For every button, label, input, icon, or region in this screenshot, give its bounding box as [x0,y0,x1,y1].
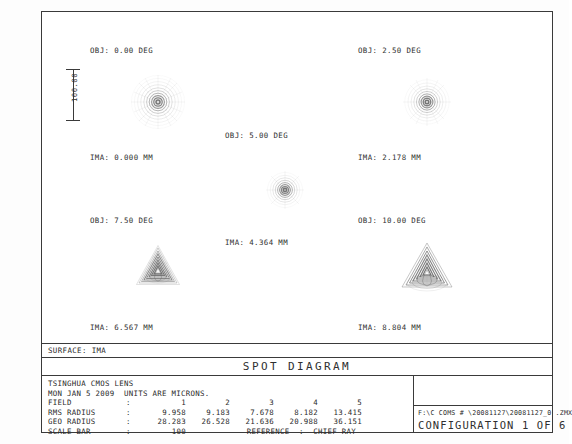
field-num-4: 4 [274,398,318,408]
geo-value-3: 21.636 [230,417,274,427]
row-label-geo: GEO RADIUS [48,417,126,427]
divider-above-surface [42,343,552,344]
spot-field-3 [242,152,328,228]
units-text: UNITS ARE MICRONS. [124,389,210,398]
table-row-lens-name: TSINGHUA CMOS LENS [48,379,408,389]
spot-field-1-glyph [115,64,201,140]
colon-rms: : [126,408,142,418]
results-table: TSINGHUA CMOS LENS MON JAN 5 2009 UNITS … [48,379,408,437]
rms-value-5: 13.415 [318,408,362,418]
rms-value-3: 7.678 [230,408,274,418]
date-units-line: MON JAN 5 2009 UNITS ARE MICRONS. [48,389,210,399]
field-2-ima-label: IMA: 2.178 MM [358,153,421,162]
scale-bar-value: 100 [142,427,186,437]
colon-field: : [126,398,142,408]
field-num-3: 3 [230,398,274,408]
field-num-2: 2 [186,398,230,408]
spot-field-4 [115,234,201,310]
table-row-field: FIELD : 1 2 3 4 5 [48,398,408,408]
spot-field-2-glyph [384,64,470,140]
spot-field-5 [384,234,470,310]
spot-field-3-glyph [242,152,328,228]
table-row-geo: GEO RADIUS : 28.283 26.528 21.636 20.988… [48,417,408,427]
spot-field-5-glyph [384,234,470,310]
colon-scale: : [126,427,142,437]
scale-bar-indicator: 100.00 [66,69,80,121]
field-3-ima-label: IMA: 4.364 MM [225,238,288,247]
table-row-date: MON JAN 5 2009 UNITS ARE MICRONS. [48,389,408,399]
table-row-rms: RMS RADIUS : 9.958 9.183 7.678 8.182 13.… [48,408,408,418]
field-5-ima-label: IMA: 8.804 MM [358,323,421,332]
field-1-ima-label: IMA: 0.000 MM [90,153,153,162]
reference-label: REFERENCE : CHIEF RAY [186,427,356,437]
divider-above-path [414,405,552,406]
row-label-scale: SCALE BAR [48,427,126,437]
footer-block: TSINGHUA CMOS LENS MON JAN 5 2009 UNITS … [42,376,552,432]
field-num-1: 1 [142,398,186,408]
geo-value-2: 26.528 [186,417,230,427]
surface-label: SURFACE: IMA [48,346,106,355]
field-label-text: FIELD [48,398,72,407]
field-5-obj-label: OBJ: 10.00 DEG [358,216,426,225]
table-row-scale: SCALE BAR : 100 REFERENCE : CHIEF RAY [48,427,408,437]
file-info-panel: F:\C COMS # \20081127\20081127_0 .ZMX CO… [414,376,552,432]
spot-field-4-glyph [115,234,201,310]
diagram-frame: 100.00 OBJ: 0.00 DEG [41,11,553,433]
spot-plot-area: 100.00 OBJ: 0.00 DEG [42,12,552,342]
file-path: F:\C COMS # \20081127\20081127_0 .ZMX [418,409,572,417]
diagram-title-bar: SPOT DIAGRAM [42,358,552,375]
rms-value-1: 9.958 [142,408,186,418]
scale-bar-top-cap [66,69,80,70]
field-3-obj-label: OBJ: 5.00 DEG [225,131,288,140]
row-label-rms: RMS RADIUS [48,408,126,418]
scale-bar-label: 100.00 [70,73,79,102]
colon-geo: : [126,417,142,427]
field-1-obj-label: OBJ: 0.00 DEG [90,46,153,55]
diagram-title: SPOT DIAGRAM [243,360,351,373]
row-label-field: FIELD [48,398,126,408]
date-text: MON JAN 5 2009 [48,389,115,398]
field-4-ima-label: IMA: 6.567 MM [90,323,153,332]
field-4-obj-label: OBJ: 7.50 DEG [90,216,153,225]
geo-value-4: 20.988 [274,417,318,427]
geo-value-1: 28.283 [142,417,186,427]
field-num-5: 5 [318,398,362,408]
spot-field-1 [115,64,201,140]
field-2-obj-label: OBJ: 2.50 DEG [358,46,421,55]
rms-value-2: 9.183 [186,408,230,418]
rms-value-4: 8.182 [274,408,318,418]
scale-bar-bottom-cap [66,120,80,121]
spot-field-2 [384,64,470,140]
lens-name: TSINGHUA CMOS LENS [48,379,134,389]
geo-value-5: 36.151 [318,417,362,427]
configuration-label: CONFIGURATION 1 OF 6 [418,419,566,431]
